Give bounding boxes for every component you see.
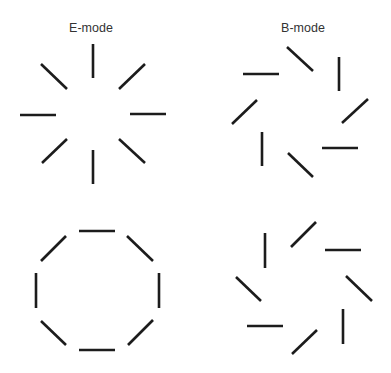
b-mode-spiral-panel <box>232 47 368 177</box>
e-mode-radial-panel <box>20 44 166 184</box>
segment <box>342 99 368 123</box>
segment <box>232 100 257 124</box>
segment <box>128 320 153 345</box>
segment <box>42 139 67 163</box>
segment <box>119 139 145 163</box>
segment <box>41 64 67 89</box>
segment <box>292 330 317 354</box>
segment <box>288 153 313 177</box>
e-mode-tangential-panel <box>36 231 159 350</box>
segment <box>127 236 153 261</box>
polarization-patterns-figure: E-mode B-mode <box>0 0 391 373</box>
segment <box>41 236 66 261</box>
segment <box>287 47 313 71</box>
segment <box>346 276 372 301</box>
segment <box>41 321 66 345</box>
segment <box>291 222 316 247</box>
e-mode-title: E-mode <box>69 21 113 35</box>
b-mode-title: B-mode <box>281 21 325 35</box>
segment <box>119 64 145 89</box>
b-mode-spiral-counter-panel <box>236 222 372 354</box>
segment <box>236 277 261 301</box>
